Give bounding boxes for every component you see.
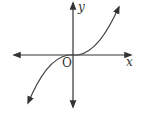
y-axis-label: y — [77, 0, 85, 14]
x-axis-label: x — [126, 55, 133, 69]
origin-label: O — [62, 56, 72, 70]
cubic-graph: y x O — [0, 0, 144, 117]
